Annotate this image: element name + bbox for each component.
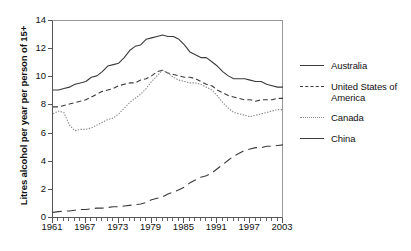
x-tick-label: 1985: [173, 222, 194, 232]
y-tick-label: 2: [0, 184, 52, 194]
chart-root: Litres alcohol per year per person of 15…: [0, 0, 411, 251]
legend-item-china[interactable]: China: [300, 133, 408, 145]
x-tick-label: 1991: [206, 222, 227, 232]
y-tick-label: 8: [0, 99, 52, 109]
x-tick-label: 1973: [107, 222, 128, 232]
y-tick-label: 6: [0, 128, 52, 138]
plot-area: [52, 20, 283, 218]
chart-legend: AustraliaUnited States of AmericaCanadaC…: [300, 60, 408, 154]
legend-item-label: Australia: [331, 60, 367, 71]
series-canvas: [53, 21, 284, 219]
x-tick-label: 2003: [271, 222, 292, 232]
x-tick-label: 1967: [74, 222, 95, 232]
series-line-united-states-of-america: [53, 70, 283, 107]
legend-item-canada[interactable]: Canada: [300, 112, 408, 124]
legend-line-swatch-icon: [300, 133, 324, 144]
x-tick-label: 1997: [239, 222, 260, 232]
legend-item-united-states-of-america[interactable]: United States of America: [300, 81, 408, 103]
y-tick-label: 4: [0, 156, 52, 166]
legend-line-swatch-icon: [300, 60, 324, 71]
legend-item-label: United States of America: [331, 81, 408, 103]
x-tick-label: 1979: [140, 222, 161, 232]
legend-line-swatch-icon: [300, 112, 324, 123]
series-line-australia: [53, 35, 283, 90]
legend-item-label: China: [331, 133, 355, 144]
series-line-china: [53, 145, 283, 213]
legend-item-australia[interactable]: Australia: [300, 60, 408, 72]
x-tick-label: 1961: [41, 222, 62, 232]
y-tick-label: 12: [0, 43, 52, 53]
y-tick-label: 14: [0, 15, 52, 25]
legend-item-label: Canada: [331, 112, 364, 123]
legend-line-swatch-icon: [300, 81, 324, 92]
y-tick-label: 10: [0, 71, 52, 81]
